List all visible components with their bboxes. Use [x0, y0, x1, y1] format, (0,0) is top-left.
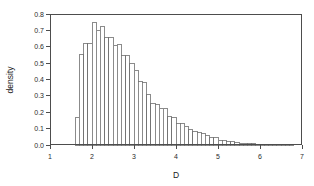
histogram-bar: [172, 118, 176, 145]
histogram-bar: [130, 63, 134, 145]
histogram-bar: [184, 126, 188, 145]
histogram-bar: [142, 83, 146, 145]
histogram-bar: [126, 56, 130, 145]
y-tick-label: 0.1: [34, 125, 44, 132]
histogram-bar: [105, 38, 109, 145]
histogram-bar: [168, 116, 172, 145]
y-tick-label: 0.5: [34, 60, 44, 67]
histogram-bar: [121, 56, 125, 145]
histogram-bar: [163, 108, 167, 145]
y-tick-label: 0.8: [34, 11, 44, 18]
histogram-bar: [176, 124, 180, 145]
histogram-bar: [193, 132, 197, 145]
y-tick-label: 0.6: [34, 43, 44, 50]
y-tick-label: 0.4: [34, 76, 44, 83]
histogram-bar: [100, 26, 104, 145]
x-tick-label: 5: [216, 153, 220, 160]
histogram-bar: [84, 43, 88, 145]
histogram-bar: [214, 138, 218, 145]
histogram-bar: [180, 124, 184, 145]
histogram-bar: [92, 22, 96, 145]
y-tick-label: 0.3: [34, 92, 44, 99]
density-histogram-plot: 0.00.10.20.30.40.50.60.70.81234567 D den…: [0, 0, 314, 186]
histogram-bar: [79, 55, 83, 145]
histogram-bar: [117, 44, 121, 145]
histogram-bar: [96, 30, 100, 145]
histogram-bar: [75, 117, 79, 145]
x-tick-label: 4: [174, 153, 178, 160]
histogram-bar: [189, 129, 193, 145]
histogram-bar: [88, 43, 92, 145]
histogram-bar: [155, 105, 159, 145]
y-tick-label: 0.2: [34, 109, 44, 116]
y-tick-label: 0.0: [34, 142, 44, 149]
histogram-bar: [113, 45, 117, 145]
histogram-bar: [205, 136, 209, 145]
histogram-bar: [138, 82, 142, 145]
histogram-bar: [201, 134, 205, 145]
x-tick-label: 6: [258, 153, 262, 160]
x-axis-title: D: [173, 170, 179, 180]
histogram-bar: [151, 103, 155, 145]
x-tick-label: 1: [48, 153, 52, 160]
histogram-figure: 0.00.10.20.30.40.50.60.70.81234567 D den…: [0, 0, 314, 186]
y-axis-title: density: [5, 66, 15, 94]
x-tick-label: 7: [300, 153, 304, 160]
histogram-bar: [210, 138, 214, 145]
histogram-bar: [109, 38, 113, 145]
histogram-bar: [147, 94, 151, 145]
y-tick-label: 0.7: [34, 27, 44, 34]
histogram-bar: [197, 133, 201, 145]
x-tick-label: 2: [90, 153, 94, 160]
x-tick-label: 3: [132, 153, 136, 160]
bars-group: [75, 22, 293, 145]
histogram-bar: [134, 70, 138, 145]
histogram-bar: [159, 108, 163, 145]
